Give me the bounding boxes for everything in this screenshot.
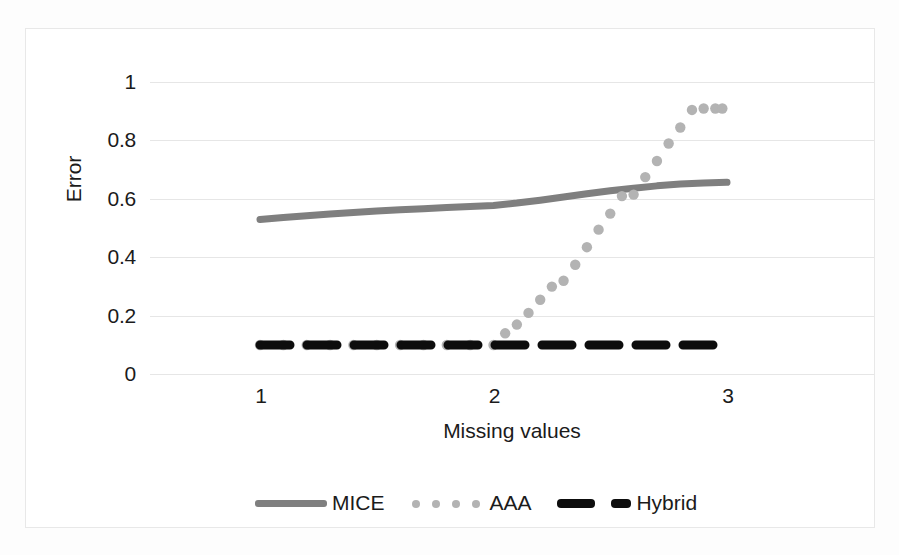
series-mice	[260, 182, 727, 219]
data-point	[628, 189, 638, 199]
data-point	[547, 281, 557, 291]
data-series-layer	[0, 0, 899, 555]
data-point	[640, 172, 650, 182]
data-point	[535, 295, 545, 305]
chart-container: Error 00.20.40.60.81 123 Missing values …	[0, 0, 899, 555]
data-point	[698, 103, 708, 113]
data-point	[605, 208, 615, 218]
data-point	[570, 260, 580, 270]
data-point	[523, 308, 533, 318]
data-point	[652, 156, 662, 166]
data-point	[558, 276, 568, 286]
data-point	[617, 191, 627, 201]
series-aaa	[255, 103, 728, 350]
data-point	[663, 138, 673, 148]
data-point	[593, 224, 603, 234]
data-point	[500, 328, 510, 338]
data-point	[512, 319, 522, 329]
series-line	[260, 182, 727, 219]
data-point	[717, 103, 727, 113]
data-point	[687, 105, 697, 115]
data-point	[675, 122, 685, 132]
data-point	[582, 242, 592, 252]
